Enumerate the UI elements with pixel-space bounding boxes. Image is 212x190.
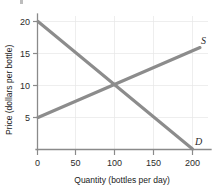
- supply-curve: [38, 48, 200, 118]
- y-tick-label-15: 15: [20, 49, 30, 59]
- y-tick-labels: 5 10 15 20: [20, 17, 30, 123]
- x-tick-label-50: 50: [70, 158, 80, 168]
- y-axis-title: Price (dollars per bottle): [4, 45, 14, 135]
- y-tick-label-20: 20: [20, 17, 30, 27]
- crop-artifact: [20, 0, 23, 4]
- x-tick-marks: [38, 150, 193, 155]
- x-tick-label-150: 150: [146, 158, 161, 168]
- x-axis-title: Quantity (bottles per day): [74, 175, 170, 185]
- x-tick-label-0: 0: [35, 158, 40, 168]
- chart-canvas: 5 10 15 20 0 50 100 150 200 S D Price (d…: [0, 0, 212, 190]
- supply-demand-chart: 5 10 15 20 0 50 100 150 200 S D Price (d…: [0, 0, 212, 190]
- demand-curve-label: D: [194, 136, 203, 147]
- y-tick-label-5: 5: [25, 113, 30, 123]
- supply-curve-label: S: [201, 35, 206, 46]
- x-tick-label-200: 200: [185, 158, 200, 168]
- x-tick-label-100: 100: [107, 158, 122, 168]
- x-tick-labels: 0 50 100 150 200: [35, 158, 200, 168]
- y-tick-label-10: 10: [20, 81, 30, 91]
